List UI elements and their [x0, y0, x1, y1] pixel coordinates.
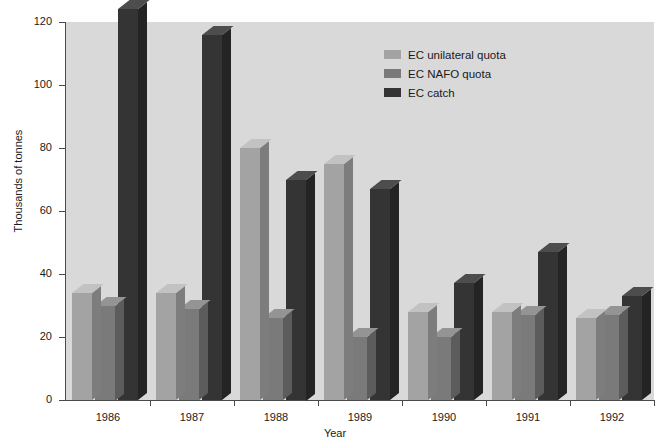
bar-1986-series0	[72, 293, 92, 400]
legend-swatch-icon	[384, 50, 401, 59]
legend-swatch-icon	[384, 69, 401, 78]
bar-side-face	[428, 305, 437, 400]
legend-swatch-icon	[384, 88, 401, 97]
y-tick-label: 0	[0, 394, 52, 405]
bar-side-face	[260, 141, 269, 400]
bar-1992-series0	[576, 318, 596, 400]
bar-side-face	[535, 308, 544, 400]
x-axis-title: Year	[300, 427, 370, 439]
y-tick-label: 120	[0, 16, 52, 27]
chart-figure: 020406080100120 198619871988198919901991…	[0, 0, 667, 443]
bar-front-face	[492, 312, 512, 400]
y-tick-mark	[59, 274, 65, 275]
y-tick-label: 20	[0, 331, 52, 342]
bar-1987-series0	[156, 293, 176, 400]
bar-side-face	[283, 311, 292, 400]
bar-front-face	[408, 312, 428, 400]
bar-side-face	[451, 330, 460, 400]
y-tick-label: 40	[0, 268, 52, 279]
bar-side-face	[474, 276, 483, 400]
x-tick-mark	[234, 400, 235, 406]
bar-side-face	[596, 311, 605, 400]
y-tick-label: 100	[0, 79, 52, 90]
bar-side-face	[222, 28, 231, 400]
x-tick-label: 1986	[78, 411, 138, 423]
bar-side-face	[558, 245, 567, 400]
legend-label: EC catch	[408, 87, 455, 99]
y-tick-mark	[59, 337, 65, 338]
bar-front-face	[156, 293, 176, 400]
legend-item: EC unilateral quota	[384, 46, 506, 63]
x-tick-mark	[570, 400, 571, 406]
bar-side-face	[138, 2, 147, 400]
y-tick-mark	[59, 211, 65, 212]
bar-front-face	[240, 148, 260, 400]
x-tick-label: 1988	[246, 411, 306, 423]
bar-side-face	[199, 302, 208, 400]
bar-side-face	[367, 330, 376, 400]
x-tick-mark	[318, 400, 319, 406]
y-tick-label: 60	[0, 205, 52, 216]
y-tick-mark	[59, 22, 65, 23]
bar-1991-series0	[492, 312, 512, 400]
x-tick-mark	[402, 400, 403, 406]
bar-front-face	[72, 293, 92, 400]
bars-container	[66, 22, 654, 400]
x-tick-mark	[654, 400, 655, 406]
bar-side-face	[619, 308, 628, 400]
bar-1990-series0	[408, 312, 428, 400]
bar-side-face	[115, 298, 124, 400]
x-tick-label: 1990	[414, 411, 474, 423]
legend-item: EC NAFO quota	[384, 65, 506, 82]
legend-label: EC NAFO quota	[408, 68, 491, 80]
legend-label: EC unilateral quota	[408, 49, 506, 61]
bar-side-face	[92, 286, 101, 400]
bar-side-face	[642, 289, 651, 400]
bar-side-face	[306, 172, 315, 400]
legend-item: EC catch	[384, 84, 506, 101]
x-tick-label: 1992	[582, 411, 642, 423]
bar-front-face	[324, 164, 344, 400]
bar-side-face	[390, 182, 399, 400]
bar-1988-series0	[240, 148, 260, 400]
x-tick-label: 1989	[330, 411, 390, 423]
y-axis-title: Thousands of tonnes	[12, 101, 24, 261]
y-axis-line	[65, 22, 66, 401]
x-tick-label: 1991	[498, 411, 558, 423]
y-tick-mark	[59, 148, 65, 149]
bar-1989-series0	[324, 164, 344, 400]
plot-area	[66, 22, 654, 400]
x-tick-label: 1987	[162, 411, 222, 423]
bar-side-face	[176, 286, 185, 400]
bar-front-face	[576, 318, 596, 400]
bar-side-face	[344, 157, 353, 400]
x-tick-mark	[486, 400, 487, 406]
x-axis-line	[65, 400, 655, 401]
y-tick-mark	[59, 85, 65, 86]
x-tick-mark	[150, 400, 151, 406]
y-tick-mark	[59, 400, 65, 401]
bar-side-face	[512, 305, 521, 400]
y-tick-label: 80	[0, 142, 52, 153]
chart-legend: EC unilateral quota EC NAFO quota EC cat…	[384, 46, 506, 103]
